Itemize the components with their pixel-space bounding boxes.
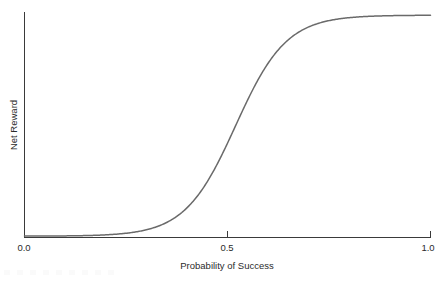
chart-figure: 0.0 0.5 1.0 Probability of Success Net R… (0, 0, 441, 282)
x-axis-title: Probability of Success (180, 260, 274, 271)
net-reward-sigmoid-chart: 0.0 0.5 1.0 Probability of Success Net R… (0, 0, 441, 282)
net-reward-curve (25, 15, 431, 236)
x-tick-label-2: 1.0 (421, 242, 434, 253)
x-tick-label-0: 0.0 (17, 242, 30, 253)
y-axis-title: Net Reward (8, 100, 19, 150)
x-tick-label-1: 0.5 (220, 242, 233, 253)
